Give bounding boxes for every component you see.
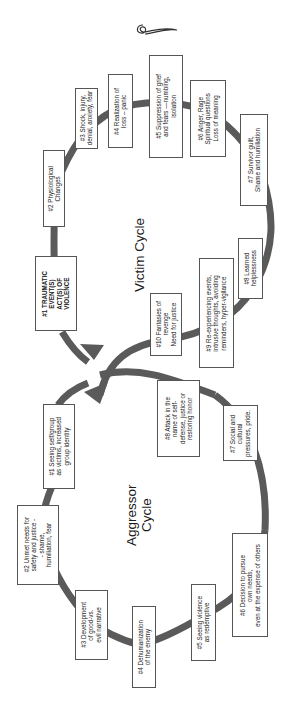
aggressor-step-3: #3 Development of good-vs. evil narrativ… bbox=[75, 590, 108, 660]
victim-cycle-title: Victim Cycle bbox=[132, 200, 147, 310]
flourish-icon bbox=[133, 22, 179, 36]
victim-step-9: #9 Re-experiencing events, intrusive tho… bbox=[199, 258, 234, 368]
victim-step-5: #5 Suppression of grief and fears —numbi… bbox=[149, 55, 183, 158]
victim-step-10-label: #10 Fantasies of revenge Need for justic… bbox=[155, 301, 177, 348]
aggressor-step-8: #8 Attack in the name of self- defense, … bbox=[157, 380, 200, 457]
aggressor-step-3-label: #3 Development of good-vs. evil narrativ… bbox=[80, 602, 102, 648]
victim-step-10: #10 Fantasies of revenge Need for justic… bbox=[150, 293, 182, 356]
victim-step-8: #8 Learned helplessness bbox=[238, 238, 263, 299]
aggressor-step-4-label: #4 Dehumanization of the enemy bbox=[137, 620, 152, 674]
victim-step-6-label: #6 Anger, Rage Spiritual questions Loss … bbox=[197, 93, 219, 144]
aggressor-step-1-label: #1 Seeing self/group as victims, increas… bbox=[48, 417, 70, 475]
aggressor-step-1: #1 Seeing self/group as victims, increas… bbox=[43, 404, 75, 489]
victim-step-7: #7 Survivor guilt, Shame and humiliation bbox=[240, 114, 268, 206]
cycles-of-violence-diagram: Victim Cycle Aggressor Cycle #1 TRAUMATI… bbox=[0, 0, 286, 714]
aggressor-step-4: #4 Dehumanization of the enemy bbox=[132, 606, 156, 688]
aggressor-step-7-label: #7 Social and cultural pressures, pride. bbox=[229, 410, 251, 457]
victim-step-2: #2 Physiological Changes bbox=[43, 150, 65, 227]
aggressor-step-6-label: #6 Decision to pursue own needs, even at… bbox=[239, 544, 261, 627]
victim-step-9-label: #9 Re-experiencing events, intrusive tho… bbox=[205, 275, 227, 352]
aggressor-step-2: #2 Unmet needs for safety and justice - … bbox=[17, 505, 59, 585]
victim-step-8-label: #8 Learned helplessness bbox=[243, 250, 258, 286]
victim-step-3-label: #3 Shock, injury, denial, anxiety, fear bbox=[79, 91, 94, 145]
victim-step-4-label: #4 Realization of loss – panic bbox=[113, 88, 128, 135]
victim-step-2-label: #2 Physiological Changes bbox=[47, 166, 62, 212]
aggressor-step-6: #6 Decision to pursue own needs, even at… bbox=[232, 533, 268, 637]
aggressor-cycle-title: Aggressor Cycle bbox=[124, 455, 154, 575]
aggressor-step-5: #5 Seeing violence as redemptive bbox=[191, 584, 216, 661]
victim-step-7-label: #7 Survivor guilt, Shame and humiliation bbox=[247, 128, 262, 192]
victim-step-4: #4 Realization of loss – panic bbox=[108, 74, 133, 148]
victim-step-3: #3 Shock, injury, denial, anxiety, fear bbox=[75, 88, 98, 149]
victim-step-6: #6 Anger, Rage Spiritual questions Loss … bbox=[190, 80, 226, 157]
aggressor-step-7: #7 Social and cultural pressures, pride. bbox=[223, 405, 258, 461]
aggressor-step-5-label: #5 Seeing violence as redemptive bbox=[196, 596, 211, 649]
victim-step-5-label: #5 Suppression of grief and fears —numbi… bbox=[155, 74, 177, 139]
victim-step-1: #1 TRAUMATIC EVENT(S) ACT(S) OF VIOLENCE bbox=[35, 256, 77, 331]
aggressor-step-8-label: #8 Attack in the name of self- defense, … bbox=[164, 393, 194, 444]
aggressor-step-2-label: #2 Unmet needs for safety and justice - … bbox=[23, 517, 53, 572]
victim-step-1-label: #1 TRAUMATIC EVENT(S) ACT(S) OF VIOLENCE bbox=[41, 271, 71, 317]
